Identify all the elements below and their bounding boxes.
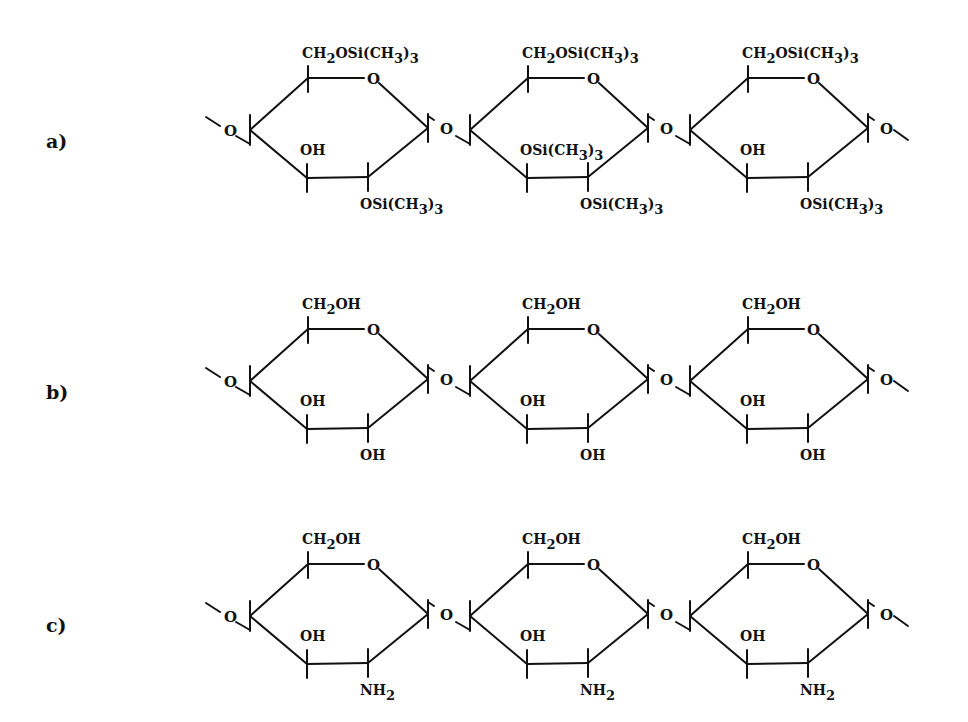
ring-oxygen: O (587, 70, 600, 88)
glucose-unit: OCH2OSi(CH3)3OSi(CH3)3OSi(CH3)3O (456, 45, 673, 217)
ring-oxygen: O (587, 556, 600, 574)
glucose-unit: OCH2OHOHNH2O (456, 531, 673, 703)
glucose-unit: OCH2OHOHOHOO (206, 296, 453, 463)
glycosidic-oxygen: O (880, 120, 893, 138)
c2-substituent: OSi(CH3)3 (800, 196, 883, 217)
glycosidic-oxygen: O (440, 606, 453, 624)
c2-substituent: OSi(CH3)3 (360, 196, 443, 217)
structure-row-c: OCH2OHOHNH2OOOCH2OHOHNH2OOCH2OHOHNH2O (206, 531, 908, 703)
c6-substituent: CH2OH (742, 296, 801, 317)
c6-substituent: CH2OH (742, 531, 801, 552)
glycosidic-oxygen: O (440, 120, 453, 138)
c3-substituent: OH (740, 142, 765, 158)
glucose-unit: OCH2OSi(CH3)3OHOSi(CH3)3O (676, 45, 908, 217)
c2-substituent: OH (800, 447, 825, 463)
glycosidic-oxygen: O (224, 608, 237, 626)
c6-substituent: CH2OH (522, 296, 581, 317)
glucose-unit: OCH2OSi(CH3)3OHOSi(CH3)3OO (206, 45, 453, 217)
c2-substituent: OH (580, 447, 605, 463)
glycosidic-oxygen: O (660, 606, 673, 624)
polysaccharide-structures-diagram: OCH2OSi(CH3)3OHOSi(CH3)3OOOCH2OSi(CH3)3O… (0, 0, 968, 722)
c2-substituent: OSi(CH3)3 (580, 196, 663, 217)
c6-substituent: CH2OH (302, 531, 361, 552)
c6-substituent: CH2OH (522, 531, 581, 552)
c6-substituent: CH2OSi(CH3)3 (302, 45, 419, 66)
ring-oxygen: O (807, 321, 820, 339)
c3-substituent: OH (740, 393, 765, 409)
glucose-unit: OCH2OHOHOHO (676, 296, 908, 463)
c3-substituent: OH (520, 628, 545, 644)
structure-row-a: OCH2OSi(CH3)3OHOSi(CH3)3OOOCH2OSi(CH3)3O… (206, 45, 908, 217)
structure-row-b: OCH2OHOHOHOOOCH2OHOHOHOOCH2OHOHOHO (206, 296, 908, 463)
glycosidic-oxygen: O (660, 120, 673, 138)
c2-substituent: NH2 (580, 682, 615, 703)
glucose-unit: OCH2OHOHNH2O (676, 531, 908, 703)
glucose-unit: OCH2OHOHOHO (456, 296, 673, 463)
c2-substituent: NH2 (800, 682, 835, 703)
c3-substituent: OH (300, 142, 325, 158)
c6-substituent: CH2OH (302, 296, 361, 317)
glycosidic-oxygen: O (224, 373, 237, 391)
glycosidic-oxygen: O (224, 122, 237, 140)
ring-oxygen: O (367, 70, 380, 88)
ring-oxygen: O (367, 321, 380, 339)
c2-substituent: OH (360, 447, 385, 463)
glucose-unit: OCH2OHOHNH2OO (206, 531, 453, 703)
ring-oxygen: O (587, 321, 600, 339)
c3-substituent: OSi(CH3)3 (520, 142, 603, 163)
glycosidic-oxygen: O (880, 371, 893, 389)
c6-substituent: CH2OSi(CH3)3 (742, 45, 859, 66)
c6-substituent: CH2OSi(CH3)3 (522, 45, 639, 66)
c3-substituent: OH (300, 393, 325, 409)
c3-substituent: OH (740, 628, 765, 644)
glycosidic-oxygen: O (880, 606, 893, 624)
ring-oxygen: O (367, 556, 380, 574)
c2-substituent: NH2 (360, 682, 395, 703)
ring-oxygen: O (807, 556, 820, 574)
c3-substituent: OH (520, 393, 545, 409)
c3-substituent: OH (300, 628, 325, 644)
glycosidic-oxygen: O (660, 371, 673, 389)
glycosidic-oxygen: O (440, 371, 453, 389)
ring-oxygen: O (807, 70, 820, 88)
